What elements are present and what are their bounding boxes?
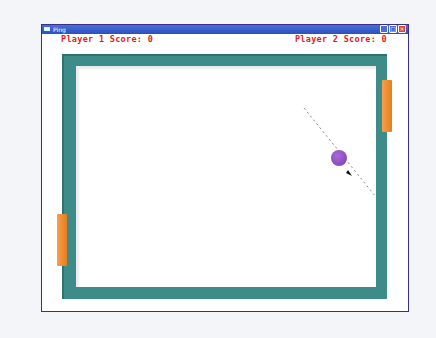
ball bbox=[331, 150, 347, 166]
ping-window: Ping _ □ × Player 1 Score: 0 Player 2 Sc… bbox=[41, 24, 409, 312]
ball-trajectory bbox=[76, 66, 376, 287]
minimize-button[interactable]: _ bbox=[380, 25, 388, 33]
court-frame bbox=[62, 54, 387, 299]
title-bar[interactable]: Ping _ □ × bbox=[42, 25, 408, 34]
playing-field[interactable] bbox=[76, 66, 376, 287]
maximize-button[interactable]: □ bbox=[389, 25, 397, 33]
player2-score: Player 2 Score: 0 bbox=[295, 34, 387, 45]
direction-arrow-icon bbox=[346, 170, 352, 176]
left-paddle[interactable] bbox=[57, 214, 67, 266]
player1-score: Player 1 Score: 0 bbox=[61, 34, 153, 45]
close-button[interactable]: × bbox=[398, 25, 406, 33]
window-title: Ping bbox=[53, 25, 66, 34]
app-icon bbox=[44, 27, 50, 31]
right-paddle[interactable] bbox=[382, 80, 392, 132]
